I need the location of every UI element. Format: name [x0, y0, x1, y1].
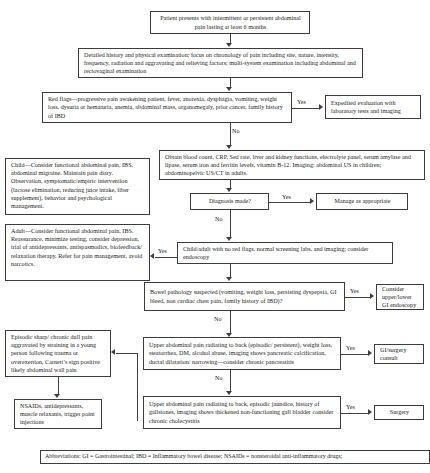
edge-label-pancreatitis-no: No [215, 375, 222, 382]
node-endoscopy: Consider upper/lower GI endoscopy [376, 284, 424, 310]
edge-bowel-pancreatitis [230, 311, 231, 334]
abbreviations-text: Abbreviations: GI = Gastrointestinal; IB… [45, 453, 342, 459]
edge-pancreatitis-cholecystitis [230, 370, 231, 392]
node-nsaids: NSAIDs, antidepressants, muscle relaxant… [14, 399, 102, 429]
node-no-red-flags-text: Child/adult with no red flags, normal sc… [183, 245, 388, 261]
edge-cholecystitis-surgery [341, 413, 369, 414]
arrowhead-labs-diagnosis [226, 188, 232, 192]
node-red-flags-text: Red flags—progressive pain awakening pat… [48, 95, 287, 120]
node-red-flags: Red flags—progressive pain awakening pat… [42, 92, 292, 123]
node-adult: Adult—Consider functional abdominal pain… [5, 224, 150, 281]
edge-noredflags-bowel [230, 264, 231, 278]
edge-label-diagnosis-yes: Yes [282, 194, 291, 201]
node-gi-surgery-text: GI/surgery consult [380, 346, 419, 362]
node-history-text: Detailed history and physical examinatio… [84, 51, 358, 76]
arrowhead-abdwall-nsaids [54, 394, 60, 398]
node-adult-text: Adult—Consider functional abdominal pain… [11, 228, 142, 267]
node-bowel-pathology-text: Bowel pathology suspected (vomiting, wei… [150, 288, 340, 304]
node-diagnosis-made: Diagnosis made? [190, 193, 269, 210]
edge-pancreatitis-abdwall [116, 353, 138, 354]
arrowhead-cholecystitis-surgery [368, 409, 372, 415]
node-cholecystitis-text: Upper abdominal pain radiating to back, … [149, 400, 336, 425]
edge-label-bowel-yes: Yes [350, 288, 359, 295]
arrowhead-noredflags-left [150, 253, 154, 259]
node-expedited: Expedited evaluation with laboratory tes… [325, 95, 421, 119]
edge-redflags-labs [230, 123, 231, 146]
node-endoscopy-text: Consider upper/lower GI endoscopy [382, 285, 419, 310]
arrowhead-redflags-expedited [319, 104, 323, 110]
arrowhead-pancreatitis-abdwall [111, 349, 115, 355]
edge-label-noredflags-yes: Yes [158, 248, 167, 255]
node-gi-surgery: GI/surgery consult [374, 344, 424, 364]
edge-label-bowel-no: No [214, 316, 221, 323]
node-history: Detailed history and physical examinatio… [78, 48, 363, 78]
node-labs: Obtain blood count, CRP, Sed rate, liver… [159, 150, 425, 180]
edge-diagnosis-manage [269, 202, 311, 203]
arrowhead-noredflags-bowel [226, 277, 232, 281]
flowchart-canvas: Patient presents with intermittent or pe… [0, 0, 430, 473]
node-bowel-pathology: Bowel pathology suspected (vomiting, wei… [144, 282, 345, 311]
node-abdominal-wall: Episodic sharp/ chronic dull pain aggrav… [5, 330, 111, 377]
edge-label-diagnosis-no: No [215, 216, 222, 223]
edge-label-pancreatitis-yes: Yes [346, 345, 355, 352]
arrowhead-presentation-history [226, 43, 232, 47]
node-manage: Manage as appropriate [316, 193, 408, 210]
arrowhead-history-redflags [226, 87, 232, 91]
edge-label-cholecystitis-yes: Yes [346, 404, 355, 411]
node-surgery-text: Surgery [380, 408, 419, 416]
edge-noredflags-left [155, 257, 178, 258]
node-nsaids-text: NSAIDs, antidepressants, muscle relaxant… [20, 403, 95, 425]
arrowhead-diagnosis-manage [310, 198, 314, 204]
edge-pancreatitis-gisurgery [341, 354, 369, 355]
edge-bowel-endoscopy [345, 297, 371, 298]
node-abdominal-wall-text: Episodic sharp/ chronic dull pain aggrav… [11, 334, 100, 373]
node-cholecystitis: Upper abdominal pain radiating to back, … [143, 396, 341, 429]
node-surgery: Surgery [374, 405, 424, 420]
node-presentation: Patient presents with intermittent or pe… [150, 11, 310, 34]
arrowhead-pancreatitis-cholecystitis [226, 391, 232, 395]
abbreviations-note: Abbreviations: GI = Gastrointestinal; IB… [40, 450, 430, 464]
edge-label-redflags-no: No [232, 128, 239, 135]
arrowhead-bowel-endoscopy [370, 293, 374, 299]
arrowhead-pancreatitis-gisurgery [368, 350, 372, 356]
node-pancreatitis-text: Upper abdominal pain radiating to back (… [149, 341, 336, 366]
arrowhead-redflags-labs [226, 145, 232, 149]
node-no-red-flags: Child/adult with no red flags, normal sc… [177, 242, 393, 264]
edge-diagnosis-noredflags [230, 210, 231, 238]
node-manage-text: Manage as appropriate [322, 197, 403, 205]
node-child: Child—Consider functional abdominal pain… [5, 158, 150, 215]
node-labs-text: Obtain blood count, CRP, Sed rate, liver… [165, 153, 420, 178]
node-pancreatitis: Upper abdominal pain radiating to back (… [143, 337, 341, 370]
node-diagnosis-made-text: Diagnosis made? [196, 197, 264, 205]
node-presentation-text: Patient presents with intermittent or pe… [156, 14, 305, 30]
node-expedited-text: Expedited evaluation with laboratory tes… [331, 99, 416, 115]
node-child-text: Child—Consider functional abdominal pain… [11, 162, 133, 209]
arrowhead-diagnosis-noredflags [226, 237, 232, 241]
edge-pancreatitis-abdwall-riser [137, 353, 138, 421]
edge-abdwall-nsaids [58, 377, 59, 395]
edge-label-redflags-yes: Yes [297, 99, 306, 106]
edge-redflags-expedited [292, 108, 320, 109]
